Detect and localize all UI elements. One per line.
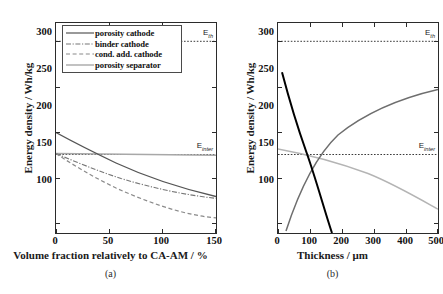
tick-mark xyxy=(56,223,60,224)
x-axis-label-a: Volume fraction relatively to CA-AM / % xyxy=(0,249,221,261)
x-ticks-a: 0 50 100 150 xyxy=(55,235,215,249)
y-tick-label: 250 xyxy=(22,64,52,74)
curve-anode-thickness xyxy=(282,72,332,233)
x-tick-label: 100 xyxy=(301,235,317,246)
y-tick-label: 150 xyxy=(22,138,52,148)
curve-porosity-separator xyxy=(56,154,216,156)
tick-mark xyxy=(342,23,343,27)
tick-mark xyxy=(434,132,438,133)
tick-mark xyxy=(278,229,279,233)
legend-label: cond. add. cathode xyxy=(95,49,162,59)
tick-mark xyxy=(406,23,407,27)
tick-mark xyxy=(310,229,311,233)
tick-mark xyxy=(310,23,311,27)
legend-key-cond-add-cathode xyxy=(65,49,95,59)
tick-mark xyxy=(109,229,110,233)
y-tick-label: 200 xyxy=(22,101,52,111)
y-tick-label: 300 xyxy=(244,27,274,37)
y-tick-label: 100 xyxy=(244,175,274,185)
tick-mark xyxy=(56,178,60,179)
tick-mark xyxy=(434,178,438,179)
tick-mark xyxy=(434,87,438,88)
tick-mark xyxy=(56,229,57,233)
x-tick-label: 150 xyxy=(206,235,222,246)
legend-label: porosity cathode xyxy=(95,28,154,38)
legend-item: binder cathode xyxy=(65,39,178,50)
ref-label-einter: Einter xyxy=(419,141,435,152)
plot-curves-b xyxy=(278,23,438,233)
x-axis-label-b: Thickness / μm xyxy=(222,249,443,261)
y-tick-label: 100 xyxy=(22,175,52,185)
y-tick-label: 250 xyxy=(244,64,274,74)
x-tick-label: 0 xyxy=(52,235,57,246)
panel-a: Energy density / Wh/kg 300 250 200 150 1… xyxy=(0,0,221,294)
ref-label-einter: Einter xyxy=(197,141,213,152)
tick-mark xyxy=(212,87,216,88)
x-tick-label: 50 xyxy=(103,235,114,246)
tick-mark xyxy=(434,41,438,42)
tick-mark xyxy=(406,229,407,233)
curve-porosity-cathode xyxy=(56,133,216,197)
tick-mark xyxy=(278,132,282,133)
curve-separator-thickness xyxy=(278,149,438,209)
tick-mark xyxy=(212,223,216,224)
tick-mark xyxy=(374,23,375,27)
legend-item: cond. add. cathode xyxy=(65,49,178,60)
x-tick-label: 200 xyxy=(333,235,349,246)
tick-mark xyxy=(212,41,216,42)
tick-mark xyxy=(212,132,216,133)
legend-item: porosity separator xyxy=(65,60,178,71)
legend-item: porosity cathode xyxy=(65,28,178,39)
x-tick-label: 300 xyxy=(365,235,381,246)
x-tick-label: 100 xyxy=(153,235,169,246)
legend-key-porosity-cathode xyxy=(65,28,95,38)
tick-mark xyxy=(437,229,438,233)
y-tick-label: 150 xyxy=(244,138,274,148)
x-tick-label: 500 xyxy=(428,235,443,246)
y-tick-label: 200 xyxy=(244,101,274,111)
ref-label-eth: Eth xyxy=(425,28,435,39)
tick-mark xyxy=(278,223,282,224)
legend-key-porosity-separator xyxy=(65,60,95,70)
tick-mark xyxy=(434,223,438,224)
legend-label: binder cathode xyxy=(95,39,149,49)
tick-mark xyxy=(278,41,282,42)
ref-label-eth: Eth xyxy=(203,28,213,39)
x-tick-label: 400 xyxy=(397,235,413,246)
figure-container: Energy density / Wh/kg 300 250 200 150 1… xyxy=(0,0,443,294)
legend-key-binder-cathode xyxy=(65,39,95,49)
tick-mark xyxy=(212,178,216,179)
curve-binder-cathode xyxy=(56,154,216,199)
legend-label: porosity separator xyxy=(95,60,161,70)
panel-caption-a: (a) xyxy=(0,268,221,279)
tick-mark xyxy=(56,41,60,42)
tick-mark xyxy=(374,229,375,233)
panel-b: Energy density / Wh/kg 300 250 200 150 1… xyxy=(222,0,443,294)
tick-mark xyxy=(56,87,60,88)
tick-mark xyxy=(162,229,163,233)
tick-mark xyxy=(215,229,216,233)
tick-mark xyxy=(278,87,282,88)
x-ticks-b: 0 100 200 300 400 500 xyxy=(277,235,437,249)
tick-mark xyxy=(342,229,343,233)
legend-a: porosity cathode binder cathode cond. ad… xyxy=(62,25,182,73)
plot-area-b: Eth Einter xyxy=(277,22,439,234)
y-tick-label: 300 xyxy=(22,27,52,37)
panel-caption-b: (b) xyxy=(222,268,443,279)
tick-mark xyxy=(56,132,60,133)
x-tick-label: 0 xyxy=(274,235,279,246)
tick-mark xyxy=(278,178,282,179)
